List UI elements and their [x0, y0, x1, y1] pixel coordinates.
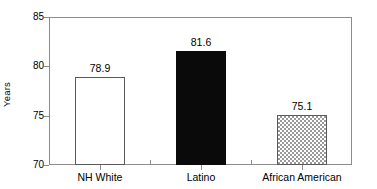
- bar-latino: [176, 51, 226, 165]
- bar-value-label: 75.1: [262, 101, 342, 112]
- y-tick-label: 75: [18, 111, 44, 121]
- x-axis-tick: [201, 165, 202, 170]
- bar-african-american: [277, 115, 327, 165]
- x-axis-tick: [150, 160, 151, 165]
- x-axis-category-label: African American: [242, 171, 362, 183]
- x-axis-tick: [251, 160, 252, 165]
- x-axis-tick: [302, 165, 303, 170]
- y-axis-title: Years: [0, 0, 14, 189]
- y-tick-label: 80: [18, 61, 44, 71]
- y-axis-tick-labels: 70 75 80 85: [18, 0, 44, 189]
- x-axis-tick: [100, 165, 101, 170]
- y-tick-label: 70: [18, 160, 44, 170]
- bar-value-label: 78.9: [60, 63, 140, 74]
- y-axis-tick: [44, 165, 49, 166]
- bar-nh-white: [75, 77, 125, 165]
- bar-value-label: 81.6: [161, 37, 241, 48]
- bar-chart: Years 70 75 80 85 78.9 81.6 75.1 NH Whit…: [0, 0, 377, 189]
- y-tick-label: 85: [18, 12, 44, 22]
